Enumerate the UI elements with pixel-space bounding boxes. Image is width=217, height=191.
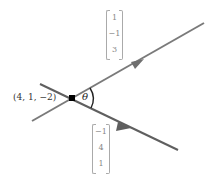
direction-vector-1: 1 −1 3: [106, 10, 123, 60]
left-bracket: [106, 10, 110, 60]
arrowhead-1-icon: [131, 59, 144, 69]
point-label: (4, 1, −2): [13, 92, 56, 102]
right-bracket: [119, 10, 123, 60]
left-bracket: [92, 124, 96, 174]
intersection-point: [69, 95, 75, 101]
right-bracket: [106, 124, 110, 174]
angle-arc: [90, 88, 93, 108]
direction-vector-2: −1 4 1: [92, 124, 110, 174]
angle-label: θ: [82, 91, 88, 102]
